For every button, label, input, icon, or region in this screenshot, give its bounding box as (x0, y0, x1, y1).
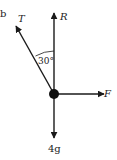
corner-label: b (0, 8, 6, 19)
tension-label: T (18, 13, 26, 24)
free-body-diagram: b R T 30° F 4g (0, 0, 117, 160)
particle-dot (49, 89, 59, 99)
applied-force-label: F (103, 88, 112, 99)
normal-force-label: R (59, 11, 68, 22)
weight-label: 4g (48, 143, 61, 154)
angle-label: 30° (38, 56, 54, 66)
